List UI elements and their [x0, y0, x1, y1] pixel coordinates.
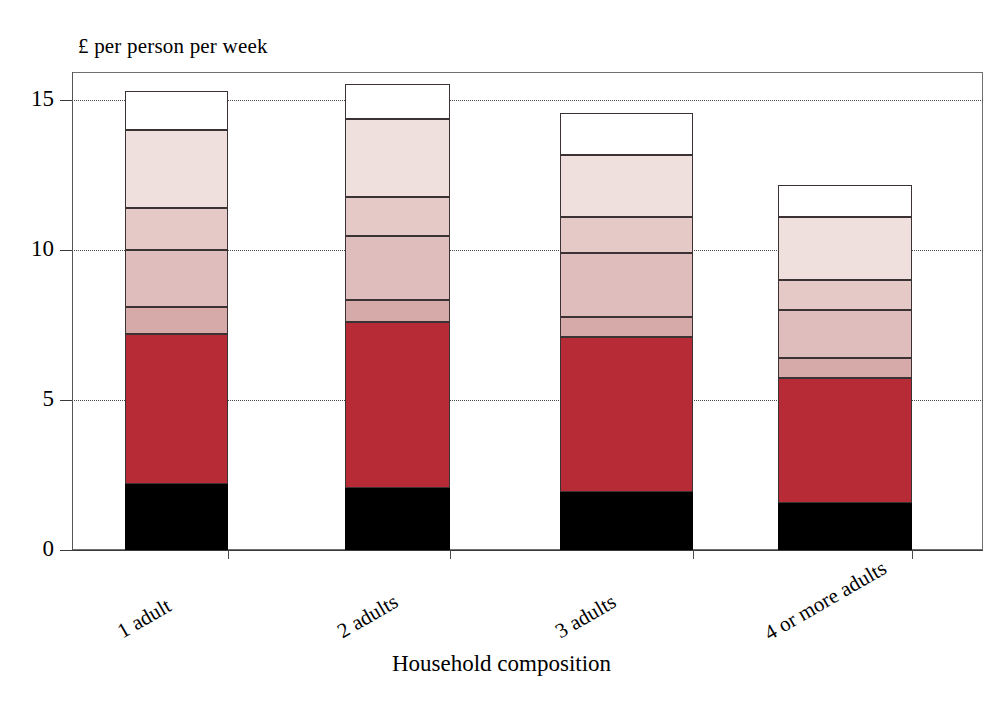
x-category-label-1: 1 adult [114, 594, 176, 643]
bar-3-segment-2[interactable] [560, 337, 693, 492]
bar-1-segment-3[interactable] [125, 307, 228, 334]
y-tick-mark-15 [60, 100, 72, 101]
y-tick-label-0: 0 [0, 537, 54, 560]
x-category-label-4: 4 or more adults [761, 557, 891, 645]
bar-1-segment-2[interactable] [125, 334, 228, 484]
bar-2-segment-7[interactable] [345, 84, 450, 119]
x-axis-title: Household composition [0, 651, 1003, 677]
bar-1-segment-5[interactable] [125, 208, 228, 250]
x-tick-mark-4 [912, 550, 913, 559]
bar-3[interactable] [560, 72, 693, 550]
x-category-label-3: 3 adults [552, 590, 621, 643]
y-tick-mark-10 [60, 250, 72, 251]
bar-3-segment-7[interactable] [560, 113, 693, 155]
bar-1-segment-6[interactable] [125, 130, 228, 208]
chart-figure: £ per person per week 051015 1 adult2 ad… [0, 0, 1003, 709]
bar-4-segment-2[interactable] [778, 378, 912, 503]
y-tick-mark-5 [60, 400, 72, 401]
y-tick-label-15: 15 [0, 87, 54, 110]
bar-3-segment-1[interactable] [560, 492, 693, 550]
bar-1-segment-1[interactable] [125, 484, 228, 550]
x-tick-mark-1 [228, 550, 229, 559]
bar-2-segment-3[interactable] [345, 300, 450, 322]
x-category-label-2: 2 adults [334, 590, 403, 643]
y-axis-line [72, 72, 73, 551]
bar-4-segment-6[interactable] [778, 217, 912, 280]
y-axis-title: £ per person per week [78, 34, 268, 58]
bar-2-segment-5[interactable] [345, 197, 450, 236]
bar-4-segment-1[interactable] [778, 503, 912, 550]
bar-2-segment-1[interactable] [345, 488, 450, 550]
y-tick-label-5: 5 [0, 387, 54, 410]
bar-4-segment-4[interactable] [778, 310, 912, 358]
bar-4[interactable] [778, 72, 912, 550]
bar-2-segment-4[interactable] [345, 236, 450, 300]
bar-1-segment-7[interactable] [125, 91, 228, 130]
bar-3-segment-3[interactable] [560, 317, 693, 337]
x-tick-mark-3 [693, 550, 694, 559]
plot-area [72, 72, 983, 550]
bar-4-segment-3[interactable] [778, 358, 912, 378]
bar-2-segment-2[interactable] [345, 322, 450, 488]
x-axis-line [60, 550, 983, 551]
bar-1[interactable] [125, 72, 228, 550]
bar-2-segment-6[interactable] [345, 119, 450, 197]
bar-4-segment-5[interactable] [778, 280, 912, 310]
y-tick-mark-0 [60, 550, 72, 551]
bar-3-segment-6[interactable] [560, 155, 693, 217]
bar-3-segment-5[interactable] [560, 217, 693, 253]
bar-1-segment-4[interactable] [125, 250, 228, 307]
bar-4-segment-7[interactable] [778, 185, 912, 217]
bar-2[interactable] [345, 72, 450, 550]
x-tick-mark-2 [450, 550, 451, 559]
bar-3-segment-4[interactable] [560, 253, 693, 317]
y-tick-label-10: 10 [0, 237, 54, 260]
